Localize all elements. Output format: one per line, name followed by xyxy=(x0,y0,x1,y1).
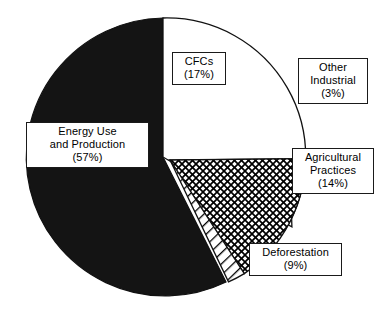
slice-label-other-industrial-percent: (3%) xyxy=(303,87,363,100)
slice-label-other-industrial-name-2: Industrial xyxy=(303,74,363,87)
slice-label-agricultural-practices-name-1: Agricultural xyxy=(297,151,369,164)
pie-chart: CFCs (17%) Other Industrial (3%) Agricul… xyxy=(0,0,381,318)
slice-label-energy-use-percent: (57%) xyxy=(31,151,144,164)
slice-label-deforestation-percent: (9%) xyxy=(254,259,337,272)
slice-label-deforestation-name: Deforestation xyxy=(254,246,337,259)
slice-label-deforestation: Deforestation (9%) xyxy=(249,243,342,276)
slice-label-energy-use-name-1: Energy Use xyxy=(31,125,144,138)
slice-label-other-industrial: Other Industrial (3%) xyxy=(298,58,368,104)
slice-label-agricultural-practices-percent: (14%) xyxy=(297,177,369,190)
slice-label-other-industrial-name-1: Other xyxy=(303,61,363,74)
slice-label-agricultural-practices-name-2: Practices xyxy=(297,164,369,177)
slice-label-energy-use-and-production: Energy Use and Production (57%) xyxy=(26,122,149,168)
slice-label-cfcs-percent: (17%) xyxy=(177,68,221,81)
slice-label-agricultural-practices: Agricultural Practices (14%) xyxy=(292,148,374,194)
slice-label-cfcs: CFCs (17%) xyxy=(172,52,226,85)
slice-label-energy-use-name-2: and Production xyxy=(31,138,144,151)
slice-label-cfcs-name: CFCs xyxy=(177,55,221,68)
